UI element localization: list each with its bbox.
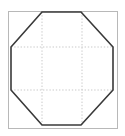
geometric-diagram [0,0,125,136]
figure-container [0,0,125,136]
diagram-background [0,0,125,136]
